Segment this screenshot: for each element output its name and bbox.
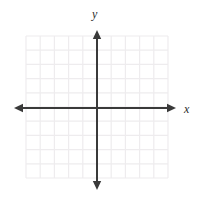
x-axis-left-arrowhead: [14, 104, 23, 112]
coordinate-plane-svg: [0, 0, 204, 202]
y-axis-label: y: [92, 8, 97, 20]
x-axis-right-arrowhead: [167, 104, 176, 112]
coordinate-plane-figure: y x: [0, 0, 204, 202]
y-axis-down-arrowhead: [93, 181, 101, 190]
y-axis-up-arrowhead: [93, 30, 101, 39]
axes-group: [14, 30, 176, 190]
x-axis-label: x: [184, 103, 189, 115]
